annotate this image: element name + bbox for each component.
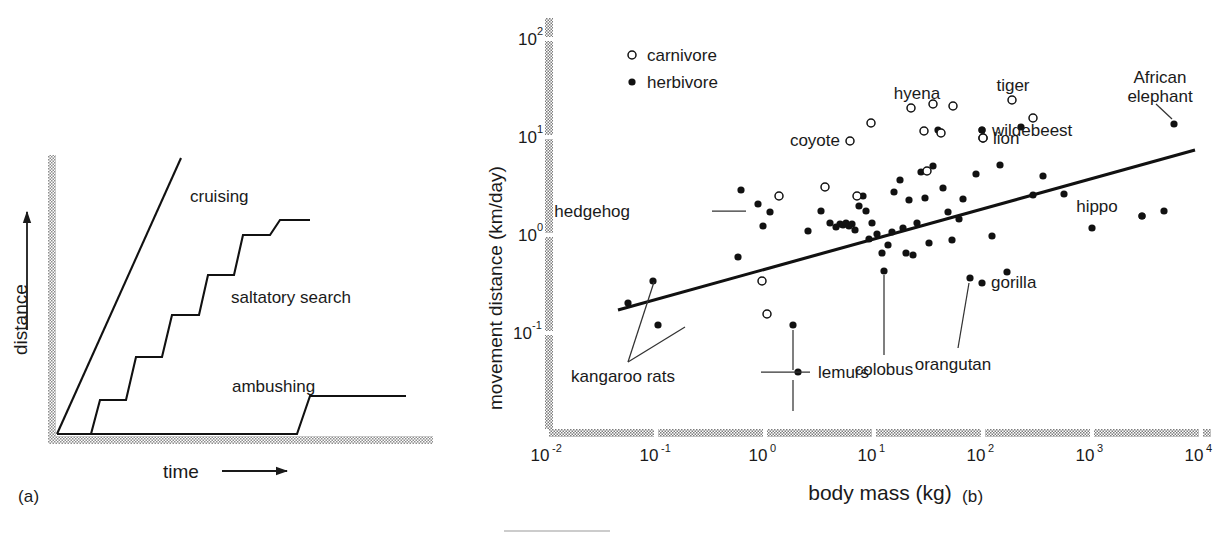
panel-a-y-axis-bar [48,155,56,443]
panel-a-svg: distance time cruising saltatory search … [0,0,480,552]
panel-a-foraging-modes: distance time cruising saltatory search … [0,0,480,552]
panel-a-y-axis-title: distance [10,284,31,355]
panel-a-caption-label: (a) [18,487,39,507]
y-tick-1e2-exp: 2 [537,25,543,37]
leader-african-elephant [1156,104,1172,119]
leader-kangaroo-rats-2 [628,327,685,362]
x-tick-1em2-exp: -2 [552,442,562,454]
x-tick-1e3-base: 10 [1076,446,1095,465]
label-tiger: tiger [996,76,1029,95]
label-orangutan: orangutan [915,355,992,374]
x-tick-1e4-exp: 4 [1206,442,1212,454]
legend-herbivore-label: herbivore [647,73,718,92]
annotation-labels: hedgehog coyote hyena tiger African elep… [554,68,1193,386]
panel-a-x-axis-bar [48,436,433,444]
x-tick-1e0-base: 10 [749,446,768,465]
y-tick-1e2-base: 10 [518,30,537,49]
label-coyote: coyote [790,131,840,150]
curve-label-saltatory-search: saltatory search [231,288,351,307]
leader-kangaroo-rats [628,282,654,362]
panel-b-x-axis-title: body mass (kg) [808,481,952,504]
y-tick-1e1-base: 10 [518,128,537,147]
x-tick-1em2-base: 10 [531,446,550,465]
x-tick-1e1-base: 10 [858,446,877,465]
gorilla-marker [978,279,985,286]
coyote-marker [846,137,854,145]
y-tick-1e1-exp: 1 [537,123,543,135]
panel-b-y-axis-title: movement distance (km/day) [485,166,506,410]
label-lion: lion [993,129,1019,148]
hippo-marker [1138,212,1145,219]
legend-carnivore-marker [628,51,636,59]
trend-line-regression [618,150,1195,310]
panel-b-y-axis [545,18,553,433]
figure-root: distance time cruising saltatory search … [0,0,1220,552]
legend-carnivore-label: carnivore [647,46,717,65]
x-tick-1e3-exp: 3 [1097,442,1103,454]
y-tick-1e0-base: 10 [518,226,537,245]
series-herbivore-points [624,120,1177,375]
x-tick-1e2-base: 10 [967,446,986,465]
panel-b-x-tick-labels: 10 -2 10 -1 10 0 10 1 10 2 10 3 10 4 [531,442,1213,465]
panel-b-caption-label: (b) [962,487,983,507]
label-hedgehog: hedgehog [554,202,630,221]
y-tick-1em1-exp: -1 [532,319,542,331]
panel-b-mass-vs-movement: 10 2 10 1 10 0 10 -1 10 -2 10 -1 10 0 10… [480,0,1220,552]
label-hyena: hyena [894,84,941,103]
x-tick-1e1-exp: 1 [879,442,885,454]
x-tick-1e0-exp: 0 [770,442,776,454]
label-kangaroo-rats: kangaroo rats [571,367,675,386]
curve-label-cruising: cruising [190,187,249,206]
panel-b-x-axis [545,429,1211,437]
legend-herbivore-marker [628,78,635,85]
x-tick-1em1-base: 10 [640,446,659,465]
x-tick-1em1-exp: -1 [661,442,671,454]
x-tick-1e4-base: 10 [1185,446,1204,465]
wildebeest-marker [978,126,985,133]
y-tick-1em1-base: 10 [513,324,532,343]
curve-saltatory-search [91,220,310,434]
leader-orangutan [958,283,969,348]
lion-marker [979,134,987,142]
label-african-elephant-line2: elephant [1127,87,1193,106]
x-tick-1e2-exp: 2 [988,442,994,454]
label-gorilla: gorilla [991,273,1037,292]
panel-b-y-tick-labels: 10 2 10 1 10 0 10 -1 [513,25,543,343]
panel-b-svg: 10 2 10 1 10 0 10 -1 10 -2 10 -1 10 0 10… [480,0,1220,552]
label-lemurs: lemurs [818,363,869,382]
panel-b-legend: carnivore herbivore [628,46,718,92]
label-african-elephant-line1: African [1134,68,1187,87]
curve-label-ambushing: ambushing [232,377,315,396]
curve-ambushing [57,396,406,434]
curve-cruising [57,158,181,434]
panel-a-x-axis-title: time [163,461,199,482]
label-hippo: hippo [1076,197,1118,216]
y-tick-1e0-exp: 0 [537,221,543,233]
